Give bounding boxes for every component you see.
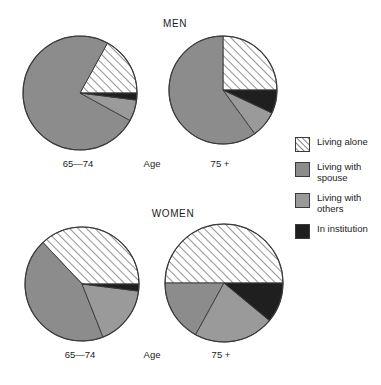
group-label-men-65-74: 65—74 xyxy=(38,158,118,169)
legend-item-living-with-others: Living with others xyxy=(295,192,381,214)
group-label-women-75-plus: 75 + xyxy=(186,349,256,360)
gray-square-icon xyxy=(295,193,310,208)
legend-label-living-with-spouse: Living with spouse xyxy=(317,161,381,183)
pie-slice xyxy=(223,36,277,90)
legend-item-in-institution: In institution xyxy=(295,223,381,239)
group-label-men-75-plus: 75 + xyxy=(185,158,255,169)
pie-chart-women-65-74 xyxy=(23,225,141,343)
chart-legend: Living alone Living with spouse Living w… xyxy=(295,136,381,248)
axis-label-women-age: Age xyxy=(122,349,182,360)
legend-label-in-institution: In institution xyxy=(317,223,368,235)
legend-label-living-alone: Living alone xyxy=(317,136,368,148)
panel-title-men: MEN xyxy=(135,18,215,29)
hatched-square-icon xyxy=(295,137,310,152)
axis-label-men-age: Age xyxy=(122,158,182,169)
legend-label-living-with-others: Living with others xyxy=(317,192,381,214)
pie-slice xyxy=(165,224,283,283)
legend-item-living-alone: Living alone xyxy=(295,136,381,152)
pie-chart-men-75-plus xyxy=(167,34,279,146)
panel-title-women: WOMEN xyxy=(128,208,218,219)
group-label-women-65-74: 65—74 xyxy=(40,349,120,360)
pie-chart-men-65-74 xyxy=(21,34,139,152)
pie-chart-women-75-plus xyxy=(163,222,285,344)
pie-chart-figure: MEN WOMEN 65—74 Age 75 + 65—74 Age 75 + xyxy=(0,0,381,385)
gray-square-icon xyxy=(295,162,310,177)
legend-item-living-with-spouse: Living with spouse xyxy=(295,161,381,183)
black-square-icon xyxy=(295,224,310,239)
